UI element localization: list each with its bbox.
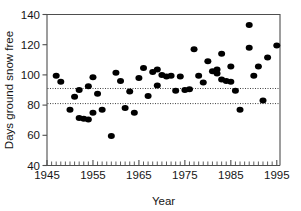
data-point (145, 93, 152, 99)
data-point (232, 88, 239, 94)
data-point (246, 45, 253, 51)
x-tick-label-1945: 1945 (34, 169, 60, 181)
data-point (227, 79, 234, 85)
data-point (186, 86, 193, 92)
data-point (85, 83, 92, 89)
data-point (214, 70, 221, 76)
data-point (177, 73, 184, 79)
data-point (237, 107, 244, 113)
data-point (117, 78, 124, 84)
data-point (85, 116, 92, 122)
data-point (108, 133, 115, 139)
x-tick-label-1965: 1965 (126, 169, 152, 181)
y-tick-label-100: 100 (21, 69, 40, 81)
y-tick-label-120: 120 (21, 39, 40, 51)
data-point (227, 64, 234, 70)
data-point (172, 88, 179, 94)
data-point (200, 79, 207, 85)
chart-canvas: 406080100120140194519551965197519851995Y… (0, 0, 301, 211)
data-point (94, 91, 101, 97)
x-tick-label-1995: 1995 (264, 169, 290, 181)
data-point (131, 110, 138, 116)
data-point (204, 58, 211, 64)
data-point (273, 42, 280, 48)
data-point (154, 82, 161, 88)
data-point (246, 22, 253, 28)
data-point (57, 79, 64, 85)
data-point (250, 73, 257, 79)
data-point (126, 89, 133, 95)
data-point (255, 64, 262, 70)
data-point (89, 74, 96, 80)
x-tick-label-1955: 1955 (80, 169, 106, 181)
data-point (135, 75, 142, 81)
data-point (191, 46, 198, 52)
data-point (195, 73, 202, 79)
y-tick-label-80: 80 (27, 99, 40, 111)
x-axis-title: Year (152, 195, 175, 207)
data-point (264, 55, 271, 61)
scatter-plot-figure: 406080100120140194519551965197519851995Y… (0, 0, 301, 211)
data-point (140, 65, 147, 71)
data-point (89, 110, 96, 116)
data-point (260, 98, 267, 104)
x-tick-label-1975: 1975 (172, 169, 198, 181)
data-point (218, 51, 225, 57)
data-point (71, 94, 78, 100)
data-point (66, 107, 73, 113)
data-point (99, 107, 106, 113)
data-point (76, 87, 83, 93)
data-point (154, 67, 161, 73)
data-point (112, 70, 119, 76)
y-axis-title: Days ground snow free (3, 31, 15, 149)
x-tick-label-1985: 1985 (218, 169, 244, 181)
y-tick-label-140: 140 (21, 9, 40, 21)
data-point (168, 73, 175, 79)
data-point (53, 73, 60, 79)
plot-area: 406080100120140194519551965197519851995Y… (3, 9, 290, 207)
y-tick-label-60: 60 (27, 129, 40, 141)
data-point (122, 105, 129, 111)
